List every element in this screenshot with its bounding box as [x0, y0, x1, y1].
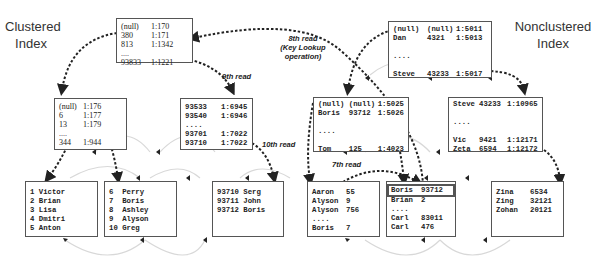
key-cell: Brian: [391, 196, 421, 205]
key-cell: 476: [421, 223, 434, 232]
key-cell: 380: [121, 31, 151, 40]
key-cell: (null): [318, 100, 349, 109]
page-pointer: 1:177: [83, 111, 101, 120]
operation-text: operation): [268, 52, 338, 61]
key-cell: Carl: [391, 223, 421, 232]
page-pointer: 1:6946: [221, 112, 247, 121]
key-cell: Boris: [318, 109, 349, 118]
key-cell: 55: [346, 188, 355, 197]
clustered-leaf-page-1: 1 Victor 2 Brian 3 Lisa 4 Dmitri 5 Anton: [25, 181, 98, 237]
index-row: 935331:6945: [185, 103, 248, 112]
page-pointer: 1:944: [83, 138, 101, 147]
page-pointer: 1:6945: [221, 103, 247, 112]
nonclustered-root-page: (null)(null)1:5011 Dan43211:5013 .... St…: [388, 21, 492, 78]
nonclustered-leaf-page-2: Boris93712 Brian2 .... Carl83011 Carl476: [386, 181, 456, 237]
clustered-leaf-page-3: 93710 Serg 93711 John 93712 Boris: [212, 181, 284, 237]
index-row: ....: [393, 52, 487, 61]
index-row: Dan43211:5013: [393, 34, 487, 43]
data-row: Zohan20121: [496, 206, 559, 215]
index-row: 938331:1221: [121, 58, 188, 67]
data-row: Carl83011: [391, 214, 451, 223]
key-cell: Boris: [391, 186, 421, 195]
page-pointer: 1:171: [151, 31, 169, 40]
nonclustered-intermediate-left-page: (null)(null)1:5025 Boris937121:5026 ....…: [313, 97, 409, 152]
key-cell: 93540: [185, 112, 221, 121]
key-cell: 2: [421, 196, 425, 205]
page-pointer: 1:7022: [221, 139, 247, 148]
data-row: Zina6534: [496, 188, 559, 197]
read-8-text: 8th read: [268, 34, 338, 43]
page-pointer: 1:176: [83, 102, 101, 111]
index-row: 935401:6946: [185, 112, 248, 121]
nonclustered-leaf-page-3: Zina6534 Zing32121 Zohan20121: [491, 181, 564, 237]
index-row: 61:177: [59, 111, 122, 120]
key-cell: Zina: [496, 188, 530, 197]
key-cell: 813: [121, 40, 151, 49]
clustered-root-page: (null)1:170 3801:171 8131:1342 .... 9383…: [116, 18, 193, 63]
data-row: 1 Victor: [30, 188, 93, 197]
key-cell: 20121: [530, 206, 552, 215]
data-row: 93710 Serg: [217, 188, 279, 197]
key-cell: 6594: [473, 145, 507, 154]
index-row: [453, 109, 538, 118]
ellipsis: ....: [318, 127, 336, 136]
index-row: ....: [59, 129, 122, 138]
key-cell: 4321: [427, 34, 456, 43]
data-row: Carl476: [391, 223, 451, 232]
ellipsis: ....: [121, 49, 151, 58]
page-pointer: 1:7022: [221, 130, 247, 139]
data-row: 8 Ashley: [109, 206, 172, 215]
data-row: 4 Dmitri: [30, 215, 93, 224]
index-row: [453, 127, 538, 136]
read-9-label: 9th read: [222, 72, 251, 81]
page-pointer: 1:4023: [378, 145, 404, 154]
index-row: 3801:171: [121, 31, 188, 40]
read-8-label: 8th read (Key Lookup operation): [268, 34, 338, 61]
index-row: 937101:7022: [185, 139, 248, 148]
data-row: 93712 Boris: [217, 206, 279, 215]
index-row: Zeta65941:12172: [453, 145, 538, 154]
data-row: Zing32121: [496, 197, 559, 206]
key-cell: (null): [349, 100, 378, 109]
index-row: Vic94211:12171: [453, 136, 538, 145]
key-cell: Alyson: [312, 206, 346, 215]
key-cell: 83011: [421, 214, 443, 223]
page-pointer: 1:5011: [456, 25, 482, 34]
index-row: 3441:944: [59, 138, 122, 147]
key-cell: 93701: [185, 130, 221, 139]
key-cell: 756: [346, 206, 359, 215]
key-cell: Zing: [496, 197, 530, 206]
data-row: Alyson756: [312, 206, 375, 215]
page-pointer: 1:12172: [507, 145, 538, 154]
data-row: 7 Boris: [109, 197, 172, 206]
index-row: [318, 118, 404, 127]
key-cell: Zeta: [453, 145, 473, 154]
key-cell: 344: [59, 138, 83, 147]
index-row: [393, 43, 487, 52]
key-cell: 9421: [473, 136, 507, 145]
data-row: 3 Lisa: [30, 206, 93, 215]
index-row: (null)1:170: [121, 22, 188, 31]
index-row: Steve432331:5017: [393, 70, 487, 79]
index-row: ....: [453, 118, 538, 127]
index-row: ....: [318, 127, 404, 136]
page-pointer: 1:5025: [378, 100, 404, 109]
index-row: Steve432331:10965: [453, 100, 538, 109]
ellipsis: ....: [312, 215, 346, 224]
key-cell: 93533: [185, 103, 221, 112]
data-row: 10 Greg: [109, 224, 172, 233]
key-cell: Tom: [318, 145, 349, 154]
index-row: Boris937121:5026: [318, 109, 404, 118]
page-pointer: 1:10965: [507, 100, 538, 109]
data-row: 6 Perry: [109, 188, 172, 197]
key-cell: Carl: [391, 214, 421, 223]
key-cell: 125: [349, 145, 378, 154]
key-cell: (null): [427, 25, 456, 34]
data-row: 5 Anton: [30, 224, 93, 233]
key-cell: Steve: [393, 70, 427, 79]
data-row: ....: [391, 205, 451, 214]
data-row: Alyson9: [312, 197, 375, 206]
index-row: ....: [121, 49, 188, 58]
index-row: [318, 136, 404, 145]
nonclustered-leaf-page-1: Aaron55 Alyson9 Alyson756 .... Boris7: [307, 181, 380, 237]
